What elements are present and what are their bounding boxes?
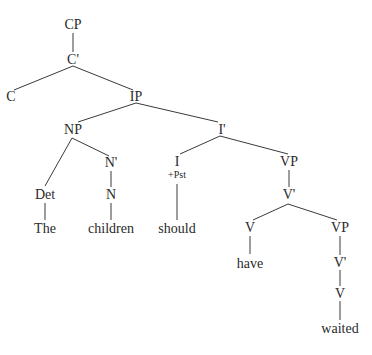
node-the: The xyxy=(34,222,56,236)
node-nbar: N' xyxy=(105,156,118,170)
node-v1: V xyxy=(245,221,255,235)
node-cp: CP xyxy=(64,18,81,32)
node-np: NP xyxy=(64,123,82,137)
node-waited: waited xyxy=(321,322,358,336)
node-cbar: C' xyxy=(67,53,79,67)
node-det: Det xyxy=(35,188,55,202)
edge-ip-np xyxy=(78,103,136,122)
edge-ip-ibar xyxy=(136,103,218,122)
syntax-tree-diagram: CPC'CIPNPI'DetN'NIVPV'ThechildrenshouldV… xyxy=(0,0,372,355)
node-should: should xyxy=(158,222,195,236)
node-c: C xyxy=(6,90,15,104)
node-n: N xyxy=(106,188,116,202)
edge-np-det xyxy=(45,138,72,186)
node-ip: IP xyxy=(130,90,142,104)
edge-cbar-c xyxy=(14,66,73,90)
node-v2: V xyxy=(335,287,345,301)
node-children: children xyxy=(88,222,134,236)
edge-ibar-vp1 xyxy=(220,136,288,154)
node-vbar1: V' xyxy=(283,188,296,202)
node-i: I xyxy=(175,155,180,169)
node-have: have xyxy=(237,257,263,271)
edge-np-nbar xyxy=(72,138,109,156)
edge-vbar1-v1 xyxy=(253,204,288,220)
edge-cbar-ip xyxy=(73,66,133,90)
node-vbar2: V' xyxy=(334,256,347,270)
edge-vbar1-vp2 xyxy=(288,204,337,220)
node-vp1: VP xyxy=(280,155,298,169)
node-ibar: I' xyxy=(218,123,225,137)
feature-i_feature: +Pst xyxy=(168,170,186,180)
node-vp2: VP xyxy=(331,221,349,235)
edge-ibar-i xyxy=(180,136,220,154)
